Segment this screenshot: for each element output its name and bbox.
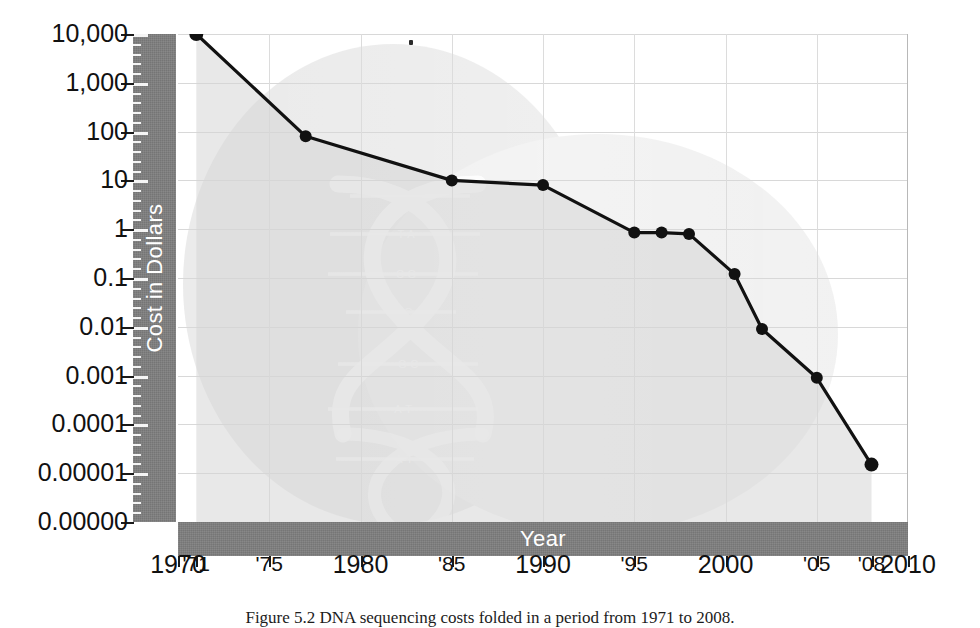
- y-tick-label: 0.00000: [0, 509, 128, 534]
- y-tick-label: 0.00001: [0, 460, 128, 485]
- y-tick-minor: [133, 385, 141, 387]
- plot-area: G-C T-A C-G G-C G-C A-T A-T: [178, 34, 908, 522]
- y-tick-major: [133, 473, 148, 476]
- y-tick-minor: [133, 415, 141, 417]
- y-tick-minor: [133, 395, 141, 397]
- y-tick-major: [133, 278, 148, 281]
- y-tick-minor: [133, 151, 141, 153]
- y-tick-minor: [133, 63, 141, 65]
- y-tick-minor: [133, 190, 141, 192]
- data-point: [300, 130, 312, 142]
- y-tick-label: 0.001: [0, 363, 128, 388]
- data-point: [628, 227, 640, 239]
- y-tick-minor: [133, 93, 141, 95]
- y-tick-major: [133, 180, 148, 183]
- y-tick-minor: [133, 161, 141, 163]
- y-tick-minor: [133, 44, 141, 46]
- y-tick-label: 0.1: [0, 265, 128, 290]
- y-tick-minor: [133, 337, 141, 339]
- data-point: [683, 228, 695, 240]
- x-tick-label: '95: [621, 550, 648, 577]
- y-tick-minor: [133, 210, 141, 212]
- y-axis-tick-marks: [133, 34, 149, 522]
- data-point: [537, 179, 549, 191]
- y-tick-minor: [133, 298, 141, 300]
- y-tick-minor: [133, 249, 141, 251]
- data-point: [865, 458, 879, 472]
- y-tick-major: [133, 34, 148, 37]
- data-point: [446, 174, 458, 186]
- y-tick-minor: [133, 219, 141, 221]
- x-tick-label: '71: [183, 550, 210, 577]
- y-tick-minor: [133, 502, 141, 504]
- y-tick-minor: [133, 112, 141, 114]
- y-tick-major: [133, 132, 148, 135]
- figure-caption: Figure 5.2 DNA sequencing costs folded i…: [0, 608, 980, 628]
- y-tick-major: [133, 229, 148, 232]
- x-tick-label: 1980: [333, 548, 389, 581]
- data-point: [729, 268, 741, 280]
- x-tick-label: 2000: [698, 548, 754, 581]
- y-tick-minor: [133, 405, 141, 407]
- data-point: [811, 372, 823, 384]
- y-tick-minor: [133, 483, 141, 485]
- series-fill: [196, 34, 871, 522]
- y-tick-minor: [133, 317, 141, 319]
- y-tick-minor: [133, 346, 141, 348]
- y-tick-minor: [133, 307, 141, 309]
- y-tick-major: [133, 376, 148, 379]
- y-tick-minor: [133, 356, 141, 358]
- y-tick-minor: [133, 444, 141, 446]
- x-tick-label: 2010: [880, 548, 936, 581]
- y-tick-minor: [133, 102, 141, 104]
- y-tick-label: 0.01: [0, 314, 128, 339]
- y-tick-label: 100: [0, 119, 128, 144]
- y-axis-tick-labels: 10,0001,0001001010.10.010.0010.00010.000…: [0, 0, 128, 626]
- y-tick-minor: [133, 141, 141, 143]
- y-tick-label: 10,000: [0, 21, 128, 46]
- y-tick-minor: [133, 493, 141, 495]
- y-tick-minor: [133, 258, 141, 260]
- scan-speck-artifact: [409, 40, 413, 45]
- y-tick-minor: [133, 454, 141, 456]
- y-tick-minor: [133, 268, 141, 270]
- y-tick-label: 1,000: [0, 70, 128, 95]
- x-tick-label: '05: [803, 550, 830, 577]
- y-tick-minor: [133, 171, 141, 173]
- y-tick-label: 10: [0, 167, 128, 192]
- y-tick-minor: [133, 122, 141, 124]
- y-tick-major: [133, 327, 148, 330]
- y-tick-label: 1: [0, 216, 128, 241]
- data-point: [756, 323, 768, 335]
- y-tick-minor: [133, 54, 141, 56]
- plot-right-border: [907, 34, 908, 522]
- y-tick-minor: [133, 463, 141, 465]
- y-tick-minor: [133, 512, 141, 514]
- y-tick-minor: [133, 288, 141, 290]
- y-tick-major: [133, 83, 148, 86]
- data-point: [656, 227, 668, 239]
- y-tick-label: 0.0001: [0, 411, 128, 436]
- y-tick-major: [133, 424, 148, 427]
- x-tick-label: '85: [438, 550, 465, 577]
- y-tick-minor: [133, 200, 141, 202]
- y-tick-major: [133, 522, 148, 525]
- y-tick-minor: [133, 366, 141, 368]
- x-tick-label: '75: [256, 550, 283, 577]
- y-tick-minor: [133, 434, 141, 436]
- x-axis-tick-labels: 1970'71'751980'851990'952000'05'082010: [0, 548, 980, 588]
- y-tick-minor: [133, 239, 141, 241]
- x-tick-label: 1990: [515, 548, 571, 581]
- y-tick-minor: [133, 73, 141, 75]
- cost-series: [178, 34, 908, 522]
